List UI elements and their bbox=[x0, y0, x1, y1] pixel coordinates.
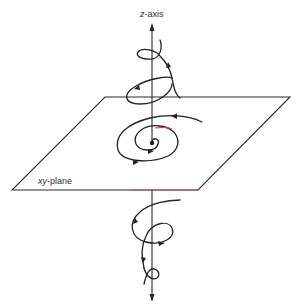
diagram-canvas: z-axis xy-plane bbox=[0, 0, 297, 306]
z-axis-label: z-axis bbox=[139, 9, 164, 19]
z-axis bbox=[150, 23, 155, 302]
xy-plane-label: xy-plane bbox=[37, 176, 72, 186]
lower-arrow-3 bbox=[141, 257, 146, 263]
arrow-down-icon bbox=[150, 294, 155, 302]
upper-helix bbox=[127, 40, 180, 104]
planar-spiral bbox=[117, 114, 202, 166]
arrow-up-icon bbox=[150, 23, 155, 31]
spiral-arrow-1 bbox=[171, 114, 177, 120]
lower-helix bbox=[132, 200, 180, 284]
